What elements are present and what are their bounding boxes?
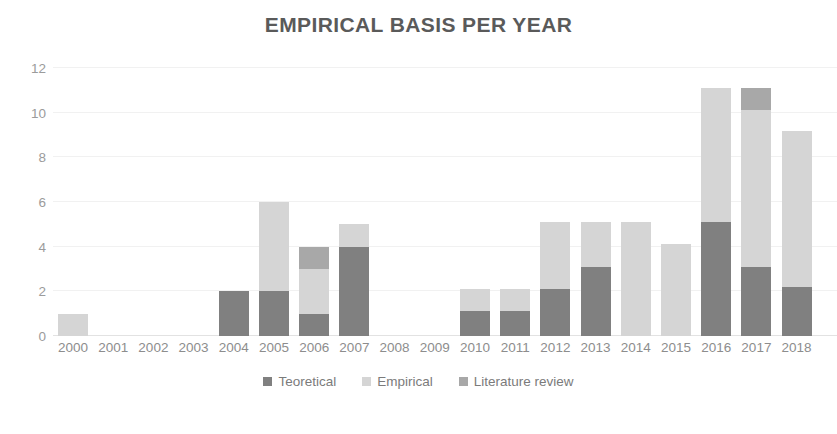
- x-axis-tick-label: 2000: [50, 340, 96, 355]
- bar-group[interactable]: [299, 68, 329, 336]
- bar-segment[interactable]: [339, 247, 369, 336]
- bars-layer: [53, 68, 837, 336]
- x-axis-tick-label: 2004: [211, 340, 257, 355]
- bar-segment[interactable]: [460, 311, 490, 336]
- bar-group[interactable]: [460, 68, 490, 336]
- bar-segment[interactable]: [661, 244, 691, 336]
- x-axis-tick-label: 2005: [251, 340, 297, 355]
- bar-segment[interactable]: [540, 222, 570, 289]
- bar-group[interactable]: [98, 68, 128, 336]
- bar-segment[interactable]: [782, 131, 812, 287]
- legend-item-label: Teoretical: [278, 374, 336, 389]
- bar-group[interactable]: [219, 68, 249, 336]
- bar-group[interactable]: [380, 68, 410, 336]
- chart-title: EMPIRICAL BASIS PER YEAR: [0, 13, 837, 37]
- x-axis-tick-label: 2018: [774, 340, 820, 355]
- legend-item[interactable]: Literature review: [459, 374, 574, 389]
- x-axis-tick-label: 2001: [90, 340, 136, 355]
- x-axis-tick-label: 2017: [733, 340, 779, 355]
- bar-group[interactable]: [58, 68, 88, 336]
- x-axis-tick-label: 2015: [653, 340, 699, 355]
- bar-group[interactable]: [540, 68, 570, 336]
- x-axis-tick-label: 2012: [532, 340, 578, 355]
- x-axis-tick-label: 2009: [412, 340, 458, 355]
- bar-group[interactable]: [339, 68, 369, 336]
- square-swatch-icon: [459, 377, 468, 386]
- bar-group[interactable]: [661, 68, 691, 336]
- x-axis-tick-label: 2013: [573, 340, 619, 355]
- x-axis: 2000200120022003200420052006200720082009…: [53, 340, 837, 364]
- bar-segment[interactable]: [259, 202, 289, 291]
- chart-legend: TeoreticalEmpiricalLiterature review: [0, 374, 837, 389]
- bar-segment[interactable]: [782, 287, 812, 336]
- x-axis-tick-label: 2003: [171, 340, 217, 355]
- bar-segment[interactable]: [540, 289, 570, 336]
- y-axis-tick-label: 8: [4, 150, 46, 165]
- bar-segment[interactable]: [741, 88, 771, 110]
- square-swatch-icon: [362, 377, 371, 386]
- bar-segment[interactable]: [259, 291, 289, 336]
- bar-segment[interactable]: [701, 88, 731, 222]
- legend-item[interactable]: Empirical: [362, 374, 433, 389]
- bar-segment[interactable]: [299, 269, 329, 314]
- y-axis-tick-label: 12: [4, 61, 46, 76]
- bar-segment[interactable]: [741, 267, 771, 336]
- bar-group[interactable]: [741, 68, 771, 336]
- x-axis-tick-label: 2010: [452, 340, 498, 355]
- bar-segment[interactable]: [621, 222, 651, 336]
- y-axis-tick-label: 4: [4, 239, 46, 254]
- bar-segment[interactable]: [299, 314, 329, 336]
- legend-item[interactable]: Teoretical: [263, 374, 336, 389]
- bar-segment[interactable]: [299, 247, 329, 269]
- x-axis-tick-label: 2008: [372, 340, 418, 355]
- y-axis-tick-label: 10: [4, 105, 46, 120]
- x-axis-tick-label: 2011: [492, 340, 538, 355]
- y-axis-tick-label: 6: [4, 195, 46, 210]
- chart-container: EMPIRICAL BASIS PER YEAR 024681012 20002…: [0, 0, 837, 434]
- y-axis-tick-label: 0: [4, 329, 46, 344]
- bar-group[interactable]: [259, 68, 289, 336]
- x-axis-tick-label: 2014: [613, 340, 659, 355]
- bar-segment[interactable]: [219, 291, 249, 336]
- legend-item-label: Empirical: [377, 374, 433, 389]
- bar-segment[interactable]: [701, 222, 731, 336]
- bar-segment[interactable]: [500, 311, 530, 336]
- bar-group[interactable]: [701, 68, 731, 336]
- bar-group[interactable]: [581, 68, 611, 336]
- bar-group[interactable]: [420, 68, 450, 336]
- bar-group[interactable]: [782, 68, 812, 336]
- y-axis: 024681012: [0, 68, 46, 336]
- y-axis-tick-label: 2: [4, 284, 46, 299]
- bar-group[interactable]: [500, 68, 530, 336]
- bar-segment[interactable]: [581, 222, 611, 267]
- bar-segment[interactable]: [58, 314, 88, 336]
- x-axis-tick-label: 2016: [693, 340, 739, 355]
- legend-item-label: Literature review: [474, 374, 574, 389]
- square-swatch-icon: [263, 377, 272, 386]
- x-axis-tick-label: 2006: [291, 340, 337, 355]
- x-axis-tick-label: 2007: [331, 340, 377, 355]
- bar-segment[interactable]: [339, 224, 369, 246]
- bar-segment[interactable]: [581, 267, 611, 336]
- bar-segment[interactable]: [741, 110, 771, 266]
- x-axis-tick-label: 2002: [130, 340, 176, 355]
- bar-group[interactable]: [138, 68, 168, 336]
- bar-segment[interactable]: [460, 289, 490, 311]
- bar-segment[interactable]: [500, 289, 530, 311]
- bar-group[interactable]: [621, 68, 651, 336]
- bar-group[interactable]: [179, 68, 209, 336]
